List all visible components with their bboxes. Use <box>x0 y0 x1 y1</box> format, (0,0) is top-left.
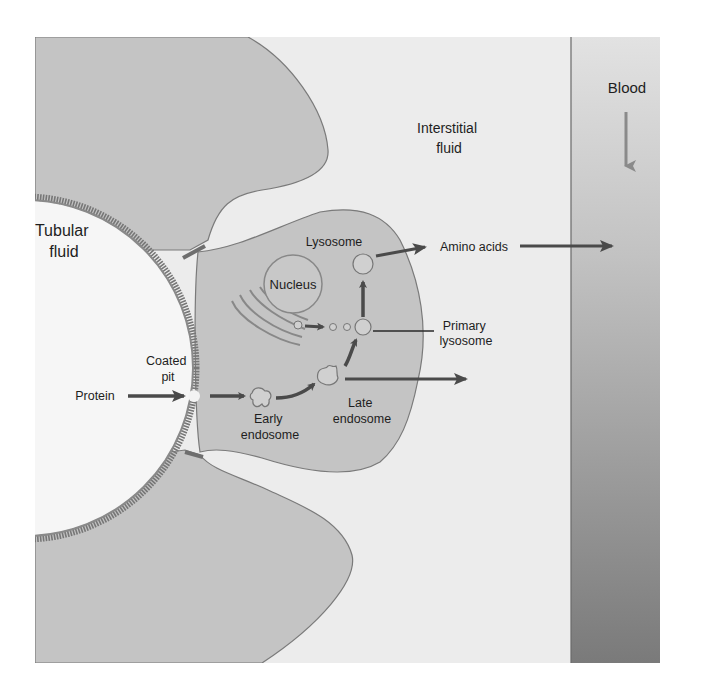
primary-lysosome-label: Primary lysosome <box>440 319 493 348</box>
blood-label: Blood <box>608 79 646 96</box>
protein-label: Protein <box>75 389 115 403</box>
lysosome-label: Lysosome <box>306 235 363 249</box>
lysosome <box>353 254 373 274</box>
nucleus-label: Nucleus <box>270 277 317 292</box>
blood-vessel <box>571 37 660 663</box>
coated-pit <box>188 390 200 402</box>
early-endosome <box>250 388 271 407</box>
primary-lysosome <box>355 319 371 335</box>
middle-epithelial-cell <box>195 210 423 472</box>
amino-acids-label: Amino acids <box>440 240 508 254</box>
protein-reabsorption-diagram: Nucleus Tubular fluid Interstitial fluid… <box>0 0 706 690</box>
